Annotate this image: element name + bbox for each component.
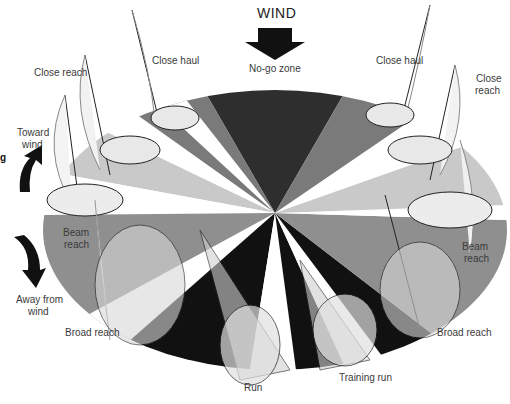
no-go-zone-label: No-go zone — [249, 63, 301, 75]
close-reach-left-label: Close reach — [34, 67, 87, 79]
down-arrow-icon — [245, 28, 305, 60]
curved-down-arrow-icon — [14, 235, 46, 288]
close-haul-left-label: Close haul — [152, 55, 199, 67]
away-from-wind-label-2: wind — [28, 306, 49, 318]
broad-reach-right-label: Broad reach — [437, 327, 491, 339]
toward-wind-label-2: wind — [22, 139, 43, 151]
run-label: Run — [244, 382, 262, 394]
beam-reach-left-label-1: Beam — [63, 227, 89, 239]
beam-reach-right-label-1: Beam — [462, 241, 488, 253]
points-of-sail-diagram: WIND No-go zone Close haul Close haul Cl… — [0, 0, 510, 404]
sail-wheel — [0, 0, 510, 404]
close-reach-right-label-2: reach — [475, 85, 500, 97]
beam-reach-left-label-2: reach — [64, 239, 89, 251]
wind-label: WIND — [257, 7, 296, 19]
cut-edge-char: g — [0, 152, 6, 164]
close-reach-right-label-1: Close — [476, 73, 502, 85]
curved-up-arrow-icon — [20, 145, 42, 192]
away-from-wind-label-1: Away from — [16, 294, 63, 306]
training-run-label: Training run — [339, 372, 392, 384]
close-haul-right-label: Close haul — [376, 55, 423, 67]
toward-wind-label-1: Toward — [17, 127, 49, 139]
broad-reach-left-label: Broad reach — [65, 327, 119, 339]
beam-reach-right-label-2: reach — [464, 253, 489, 265]
